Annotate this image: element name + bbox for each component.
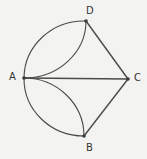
label-D: D	[86, 6, 94, 16]
point-D-dot	[84, 19, 88, 23]
geometry-diagram: A B C D	[0, 0, 147, 159]
point-A-dot	[22, 76, 26, 80]
segment-CD	[86, 21, 128, 79]
point-C-dot	[126, 77, 130, 81]
label-B: B	[86, 143, 93, 153]
diagram-figure	[0, 0, 147, 159]
segment-AC	[24, 78, 128, 79]
inner-arc-AD	[24, 21, 86, 78]
point-B-dot	[82, 134, 86, 138]
inner-arc-AB	[24, 78, 84, 136]
label-C: C	[134, 73, 141, 83]
label-A: A	[9, 72, 16, 82]
segment-CB	[84, 79, 128, 136]
